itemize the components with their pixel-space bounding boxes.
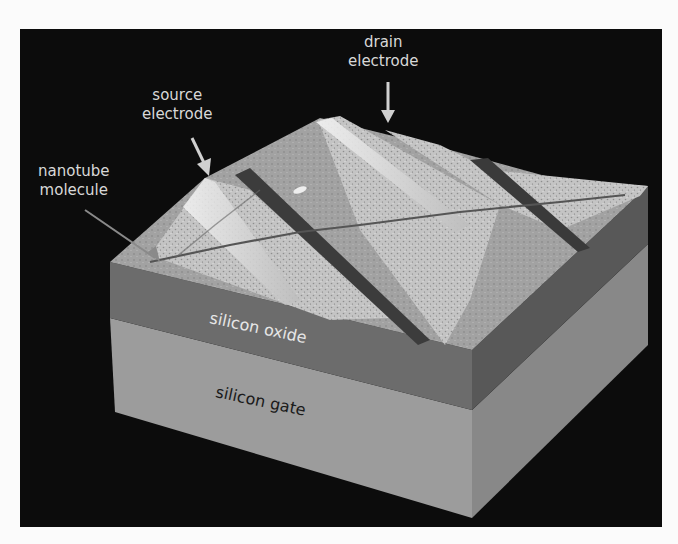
- nanotube-label-line2: molecule: [38, 181, 110, 200]
- source-electrode-label: source electrode: [142, 86, 213, 124]
- drain-arrow: [381, 82, 395, 123]
- drain-label-line1: drain: [348, 33, 419, 52]
- source-arrow: [192, 138, 211, 176]
- transistor-block-illustration: [0, 0, 678, 544]
- drain-electrode-label: drain electrode: [348, 33, 419, 71]
- nanotube-label-line1: nanotube: [38, 162, 110, 181]
- source-label-line2: electrode: [142, 105, 213, 124]
- drain-label-line2: electrode: [348, 52, 419, 71]
- source-label-line1: source: [142, 86, 213, 105]
- nanotube-molecule-label: nanotube molecule: [38, 162, 110, 200]
